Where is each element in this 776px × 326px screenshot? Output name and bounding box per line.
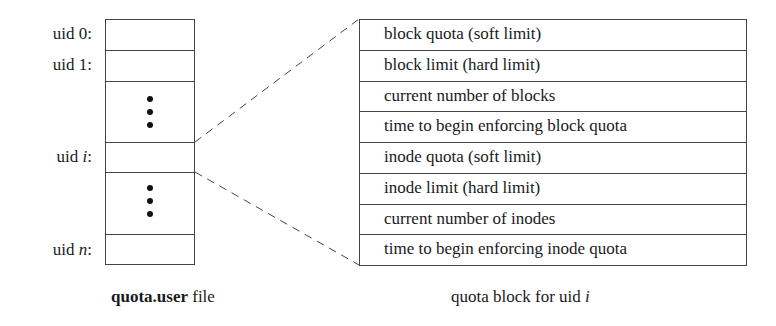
uid-prefix: uid [57,147,83,166]
field-inode-quota: inode quota (soft limit) [360,143,746,174]
uid-value: n [79,240,88,259]
uid-label-0: uid 0: [0,24,92,44]
quota-block-caption: quota block for uid i [451,287,590,307]
vertical-ellipsis-icon [106,96,194,135]
field-current-blocks: current number of blocks [360,82,746,113]
row-divider [106,172,194,173]
field-inode-limit: inode limit (hard limit) [360,174,746,205]
uid-colon: : [87,55,92,74]
row-divider [106,50,194,51]
caption-filename: quota.user [111,287,188,306]
uid-label-n: uid n: [0,240,92,260]
quota-user-file-caption: quota.user file [111,287,215,307]
quota-user-file-box [105,19,195,265]
row-divider [106,234,194,235]
caption-var: i [585,287,590,306]
uid-colon: : [87,147,92,166]
uid-colon: : [87,24,92,43]
vertical-ellipsis-icon [106,185,194,224]
row-divider [106,142,194,143]
field-block-grace-time: time to begin enforcing block quota [360,112,746,143]
uid-prefix: uid [53,55,79,74]
row-divider [106,81,194,82]
quota-block-box: block quota (soft limit) block limit (ha… [359,19,747,266]
uid-prefix: uid [53,240,79,259]
uid-label-i: uid i: [0,147,92,167]
field-inode-grace-time: time to begin enforcing inode quota [360,235,746,266]
uid-value: 0 [79,24,88,43]
uid-colon: : [87,240,92,259]
field-current-inodes: current number of inodes [360,205,746,236]
caption-text: quota block for uid [451,287,585,306]
uid-value: 1 [79,55,88,74]
caption-suffix: file [188,287,215,306]
uid-prefix: uid [53,24,79,43]
field-block-limit: block limit (hard limit) [360,51,746,82]
uid-label-1: uid 1: [0,55,92,75]
field-block-quota: block quota (soft limit) [360,20,746,51]
